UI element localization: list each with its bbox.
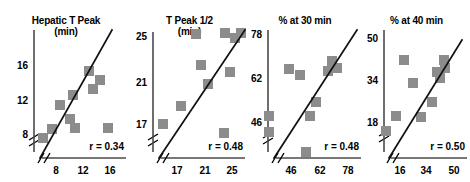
y-tick-label: 21 [136,77,148,88]
data-points-pct40 [381,55,450,136]
x-tick-label: 34 [420,165,432,176]
panel-pct-at-30-min: % at 30 min [247,0,363,182]
y-tick-label: 18 [367,117,379,128]
correlation-label-hepatic: r = 0.34 [89,141,124,152]
y-tick-label: 16 [17,60,29,71]
x-tick-labels-pct30: 46 62 78 [285,165,354,176]
panel-t-peak-half: T Peak 1/2 (min) [132,0,247,182]
data-points-tpeakhalf [158,28,246,138]
y-tick-label: 78 [251,29,263,40]
x-tick-labels-tpeakhalf: 17 21 25 [171,165,238,176]
scatter-plot-pct-at-30-min: 78 62 46 46 62 78 r = 0.48 [247,0,363,182]
panel-pct-at-40-min: % at 40 min [363,0,470,182]
y-tick-labels-pct30: 78 62 46 [251,29,263,128]
scatter-plot-t-peak-half: 25 21 17 17 21 25 r = 0.48 [132,0,247,182]
y-tick-label: 62 [251,73,263,84]
x-tick-label: 12 [77,165,89,176]
y-tick-label: 25 [136,31,148,42]
x-tick-labels-hepatic: 8 12 16 [53,165,116,176]
y-tick-label: 46 [251,117,263,128]
figure-panel-grid: Hepatic T Peak (min) [0,0,470,182]
y-tick-label: 17 [136,119,148,130]
panel-hepatic-t-peak: Hepatic T Peak (min) [0,0,132,182]
scatter-plot-pct-at-40-min: 50 34 18 16 34 50 r = 0.50 [363,0,470,182]
x-tick-label: 25 [226,165,238,176]
y-tick-label: 34 [367,75,379,86]
x-tick-label: 78 [342,165,354,176]
y-tick-label: 50 [367,33,379,44]
data-points-hepatic [38,66,113,143]
x-tick-label: 8 [53,165,59,176]
correlation-label-pct30: r = 0.48 [324,141,359,152]
x-tick-labels-pct40: 16 34 50 [394,165,460,176]
x-tick-label: 16 [394,165,406,176]
x-tick-label: 17 [171,165,183,176]
y-tick-labels-hepatic: 16 12 8 [17,60,29,140]
y-tick-label: 8 [22,129,28,140]
correlation-label-pct40: r = 0.50 [430,141,465,152]
regression-line-pct30 [274,30,357,158]
y-tick-labels-tpeakhalf: 25 21 17 [136,31,148,130]
x-tick-label: 21 [199,165,211,176]
scatter-plot-hepatic-t-peak: 16 12 8 8 12 16 r = 0.34 [0,0,132,182]
x-tick-label: 46 [285,165,297,176]
y-tick-labels-pct40: 50 34 18 [367,33,379,128]
x-tick-label: 16 [104,165,116,176]
regression-line-hepatic [40,30,112,158]
regression-line-tpeakhalf [159,30,245,158]
x-tick-label: 62 [314,165,326,176]
y-tick-label: 12 [17,95,29,106]
x-tick-label: 50 [448,165,460,176]
correlation-label-tpeakhalf: r = 0.48 [208,141,243,152]
